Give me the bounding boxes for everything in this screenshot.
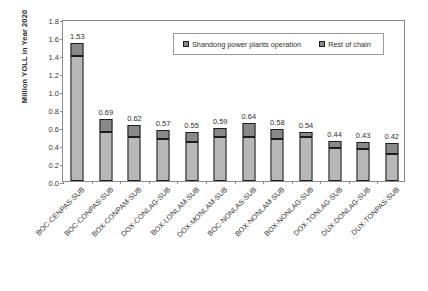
bar-group[interactable]: 0.62 (120, 21, 149, 181)
y-axis-tick-mark (60, 129, 63, 130)
legend-swatch-icon (319, 41, 325, 47)
bar-value-label: 0.43 (356, 131, 371, 140)
x-axis-label: DUX-DONLAG-SUB (319, 185, 372, 238)
x-axis-labels: BOC-CENPAS-SUBBOC-CONPAS-SUBBOX-CONPAM-S… (0, 183, 428, 291)
legend-label-shandong: Shandong power plants operation (192, 40, 301, 49)
bar-value-label: 0.55 (184, 121, 199, 130)
y-axis-title: Million YOLL in Year 2020 (20, 0, 29, 117)
y-axis-tick-mark (60, 165, 63, 166)
legend-label-rest-of-chain: Rest of chain (328, 40, 371, 49)
y-axis-tick-mark (60, 75, 63, 76)
bar-value-label: 0.69 (99, 108, 114, 117)
legend-swatch-icon (183, 41, 189, 47)
bar-value-label: 0.42 (384, 132, 399, 141)
bar-value-label: 0.62 (127, 114, 142, 123)
bar-value-label: 0.54 (299, 121, 314, 130)
bar-value-label: 0.57 (156, 119, 171, 128)
bar-value-label: 0.64 (241, 112, 256, 121)
bar-value-label: 1.53 (70, 32, 85, 41)
x-axis-label: BOX-CONPAM-SUB (90, 185, 144, 239)
y-axis-tick-mark (60, 93, 63, 94)
bar-group[interactable]: 0.69 (92, 21, 121, 181)
x-axis-label: BOC-CENPAS-SUB (34, 185, 86, 237)
chart-legend: Shandong power plants operation Rest of … (173, 33, 384, 55)
legend-item-shandong: Shandong power plants operation (183, 40, 301, 49)
y-axis-tick-mark (60, 147, 63, 148)
x-axis-label: DOX-MONLAM-SUB (175, 185, 229, 239)
x-axis-label: BOX-NONLAM-SUB (233, 185, 286, 238)
y-axis-tick-mark (60, 57, 63, 58)
chart-container: Million YOLL in Year 2020 1.530.690.620.… (0, 0, 428, 291)
y-axis-tick-mark (60, 39, 63, 40)
x-axis-label: DOX-TONLAG-SUB (291, 185, 344, 238)
bar-value-label: 0.59 (213, 117, 228, 126)
y-axis-tick-mark (60, 21, 63, 22)
bar-value-label: 0.44 (327, 130, 342, 139)
y-axis-tick-mark (60, 111, 63, 112)
bar-group[interactable]: 1.53 (63, 21, 92, 181)
legend-item-rest-of-chain: Rest of chain (319, 40, 371, 49)
bar-value-label: 0.58 (270, 118, 285, 127)
